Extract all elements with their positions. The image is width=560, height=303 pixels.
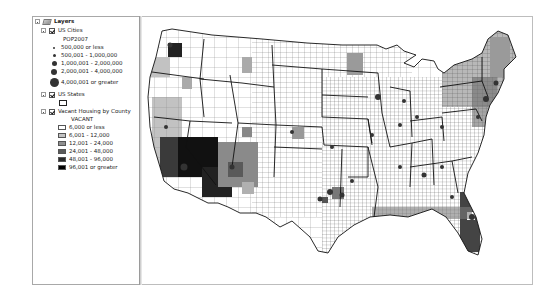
color-swatch-icon	[58, 157, 66, 162]
table-of-contents-panel: Layers US Cities POP2007 500,000 or less…	[32, 16, 141, 285]
city-symbol-icon	[53, 47, 55, 49]
city-symbol-icon	[51, 69, 57, 75]
color-swatch-icon	[58, 133, 66, 138]
city-symbol-icon	[52, 61, 57, 66]
toc-layer-us-cities[interactable]: US Cities	[41, 26, 83, 35]
state-outline-symbol-icon	[59, 100, 67, 106]
legend-class: 96,001 or greater	[58, 163, 118, 172]
city-symbol-icon	[53, 54, 56, 57]
layer-visibility-checkbox[interactable]	[49, 92, 55, 98]
color-swatch-icon	[58, 141, 66, 146]
toc-root-layers[interactable]: Layers	[35, 17, 74, 26]
layers-icon	[42, 19, 52, 25]
collapse-toggle-icon[interactable]	[41, 92, 46, 97]
collapse-toggle-icon[interactable]	[41, 28, 46, 33]
legend-class-label: 4,000,001 or greater	[61, 78, 118, 87]
layer-visibility-checkbox[interactable]	[49, 28, 55, 34]
city-symbol-icon	[50, 78, 59, 87]
legend-class-label: 2,000,001 - 4,000,000	[61, 67, 122, 76]
layer-label: US Cities	[58, 26, 83, 35]
layer-label: Vacant Housing by County	[58, 107, 131, 116]
legend-class-label: 96,001 or greater	[69, 163, 118, 172]
layers-root-label: Layers	[54, 17, 74, 26]
legend-class: 4,000,001 or greater	[49, 77, 118, 88]
legend-class: 2,000,001 - 4,000,000	[49, 67, 122, 76]
collapse-toggle-icon[interactable]	[35, 19, 40, 24]
color-swatch-icon	[58, 149, 66, 154]
collapse-toggle-icon[interactable]	[41, 109, 46, 114]
color-swatch-icon	[58, 165, 66, 170]
layer-visibility-checkbox[interactable]	[49, 109, 55, 115]
color-swatch-icon	[58, 125, 66, 130]
us-map-canvas	[142, 17, 533, 285]
map-view[interactable]	[142, 16, 533, 285]
legend-class	[59, 98, 67, 107]
